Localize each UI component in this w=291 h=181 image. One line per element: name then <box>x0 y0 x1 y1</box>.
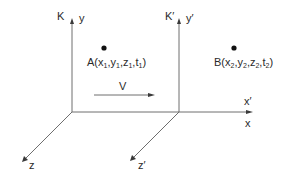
k-y-axis-label: y <box>79 12 85 24</box>
k-z-axis <box>25 112 72 159</box>
velocity-label: V <box>119 80 127 92</box>
reference-frames-diagram: K y z x′ x K′ y′ z′ V A(x1,y1,z1,t1) <box>0 0 291 181</box>
event-b-dot-icon <box>231 45 236 50</box>
k-prime-y-axis-label: y′ <box>186 12 194 24</box>
k-prime-z-axis <box>133 112 179 158</box>
velocity-indicator: V <box>94 80 155 97</box>
event-a-label: A(x1,y1,z1,t1) <box>87 56 146 69</box>
k-prime-frame-label: K′ <box>165 10 174 22</box>
k-prime-z-axis-label: z′ <box>138 159 146 171</box>
event-a-dot-icon <box>101 45 106 50</box>
k-frame-label: K <box>57 10 65 22</box>
velocity-arrow-icon <box>148 93 155 97</box>
k-prime-y-arrow-icon <box>177 18 181 24</box>
k-z-axis-label: z <box>29 159 35 171</box>
event-b-label: B(x2,y2,z2,t2) <box>214 56 273 69</box>
x-axis-group: x′ x <box>72 95 253 129</box>
x-arrow-icon <box>246 110 253 114</box>
frame-k: K y z <box>22 10 85 171</box>
x-prime-axis-label: x′ <box>244 95 252 107</box>
event-a: A(x1,y1,z1,t1) <box>87 45 146 69</box>
frame-k-prime: K′ y′ z′ <box>130 10 194 171</box>
x-axis-label: x <box>245 117 251 129</box>
event-b: B(x2,y2,z2,t2) <box>214 45 273 69</box>
k-y-arrow-icon <box>70 18 74 24</box>
